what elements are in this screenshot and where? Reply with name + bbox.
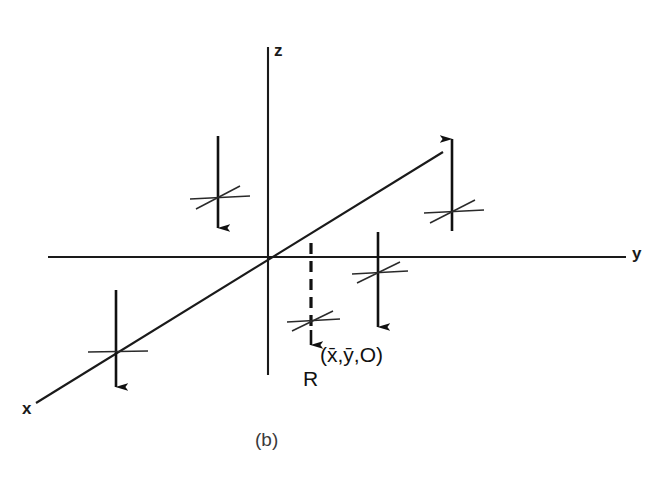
z-axis-label: z — [274, 42, 283, 59]
x-axis-label: x — [22, 400, 31, 417]
force-vector-mid-right — [352, 232, 408, 327]
y-axis-label: y — [632, 245, 641, 262]
break-mark-upper-left — [190, 186, 250, 209]
break-mark-upper-right — [424, 200, 484, 223]
resultant-vector-R — [287, 243, 340, 345]
figure-caption: (b) — [255, 430, 278, 449]
break-mark-lower-left — [88, 351, 148, 352]
figure-container: z y x (x̄,ȳ,O) R (b) — [0, 0, 657, 479]
diagram-canvas — [0, 0, 657, 479]
break-mark-resultant — [287, 311, 340, 331]
point-coordinate-label: (x̄,ȳ,O) — [320, 344, 383, 365]
force-vector-upper-right — [424, 139, 484, 231]
force-vector-upper-left — [190, 136, 250, 228]
resultant-force-label: R — [303, 368, 318, 389]
break-mark-mid-right — [352, 262, 408, 283]
